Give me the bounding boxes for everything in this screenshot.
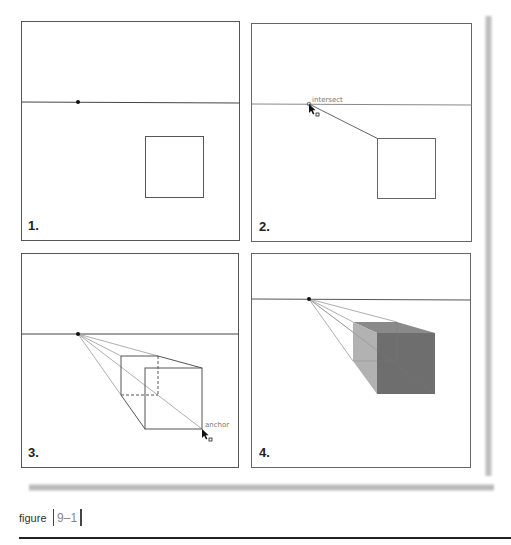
panel-3: anchor [22,254,239,468]
panel-4-label: 4. [259,445,270,460]
bottom-rule [19,537,511,539]
vanishing-point [76,332,80,336]
panel-2-label: 2. [259,219,270,234]
figure-number: 9–1 [57,511,77,525]
panel-1 [22,22,240,241]
vanishing-point [76,100,80,104]
figure-canvas: intersect [0,0,511,545]
panel-3-label: 3. [28,445,39,460]
panel-1-label: 1. [28,218,39,233]
caption-word: figure [19,512,47,524]
panel-frame [22,22,240,241]
diagram-svg: intersect [0,0,511,545]
panel-frame [22,254,239,468]
figure-caption: figure 9–1 [19,509,82,526]
caption-divider [53,509,55,526]
intersect-annotation: intersect [312,96,343,104]
panel-4 [252,254,471,468]
vanishing-point [307,297,311,301]
anchor-annotation: anchor [205,421,229,429]
panel-2: intersect [252,24,472,242]
panel-frame [252,24,472,242]
caption-divider [80,509,82,526]
box-front-face [377,333,435,394]
